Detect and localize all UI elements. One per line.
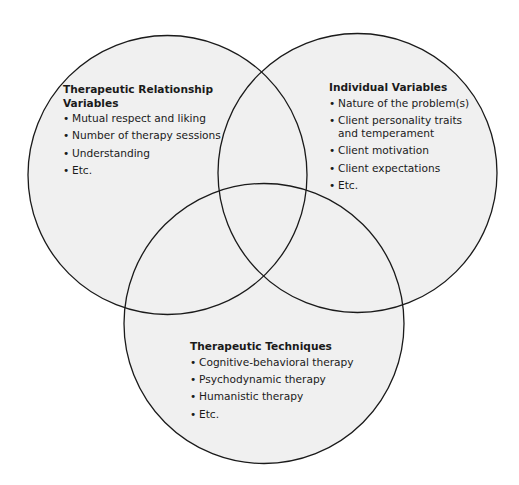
relationship-variables-list: Mutual respect and liking Number of ther… [63,112,223,177]
therapeutic-techniques-title: Therapeutic Techniques [190,340,360,354]
list-item: Client personality traits and temperamen… [329,114,479,140]
list-item: Nature of the problem(s) [329,97,479,110]
individual-variables-list: Nature of the problem(s) Client personal… [329,97,479,193]
therapeutic-techniques-block: Therapeutic Techniques Cognitive-behavio… [190,340,360,425]
individual-variables-title: Individual Variables [329,81,479,95]
list-item: Mutual respect and liking [63,112,223,125]
list-item: Number of therapy sessions [63,129,223,142]
list-item: Client motivation [329,144,479,157]
list-item: Humanistic therapy [190,390,360,403]
list-item: Etc. [329,179,479,192]
relationship-variables-block: Therapeutic Relationship Variables Mutua… [63,83,223,182]
list-item: Psychodynamic therapy [190,373,360,386]
individual-variables-block: Individual Variables Nature of the probl… [329,81,479,196]
list-item: Understanding [63,147,223,160]
list-item: Etc. [63,164,223,177]
list-item: Cognitive-behavioral therapy [190,356,360,369]
list-item: Etc. [190,408,360,421]
venn-diagram: Therapeutic Relationship Variables Mutua… [0,0,519,485]
list-item: Client expectations [329,162,479,175]
therapeutic-techniques-list: Cognitive-behavioral therapy Psychodynam… [190,356,360,421]
relationship-variables-title: Therapeutic Relationship Variables [63,83,223,110]
